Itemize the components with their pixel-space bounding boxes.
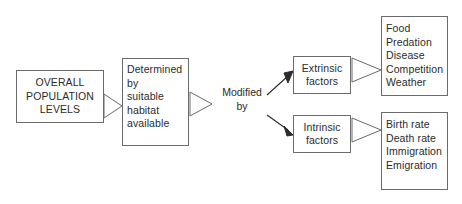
connector-population-to-determined-icon (104, 94, 122, 118)
node-line: by (127, 77, 188, 91)
node-line: Competition (386, 63, 447, 77)
node-line: Weather (386, 76, 447, 90)
node-extrinsic-factor-list: Food Predation Disease Competition Weath… (381, 16, 448, 96)
node-line: Food (386, 22, 447, 36)
edge-label-modified-by: Modified by (216, 86, 268, 113)
node-extrinsic-factors: Extrinsic factors (293, 56, 351, 94)
node-intrinsic-factor-list: Birth rate Death rate Immigration Emigra… (381, 112, 448, 190)
node-line: available (127, 117, 188, 131)
connector-determined-to-modified-icon (190, 92, 212, 116)
node-line: Extrinsic (302, 62, 343, 76)
node-line: habitat (127, 104, 188, 118)
node-line: suitable (127, 90, 188, 104)
flowchart-diagram: OVERALL POPULATION LEVELS Determined by … (0, 0, 462, 204)
node-line: LEVELS (26, 103, 94, 117)
node-line: factors (303, 134, 340, 148)
node-line: POPULATION (26, 90, 94, 104)
node-line: Emigration (386, 159, 447, 173)
connector-extrinsic-to-list-icon (352, 58, 381, 82)
connector-modified-to-intrinsic-icon (284, 126, 293, 136)
node-line: Immigration (386, 145, 447, 159)
node-line: OVERALL (26, 76, 94, 90)
edge-label-line: by (216, 100, 268, 114)
node-overall-population-levels: OVERALL POPULATION LEVELS (16, 70, 104, 123)
node-determined-by-suitable-habitat: Determined by suitable habitat available (122, 58, 189, 146)
node-intrinsic-factors: Intrinsic factors (293, 115, 351, 153)
connector-intrinsic-to-list-icon (352, 118, 381, 142)
node-line: Predation (386, 36, 447, 50)
edge-label-line: Modified (216, 86, 268, 100)
connector-modified-to-extrinsic-line (267, 76, 288, 95)
node-line: Birth rate (386, 118, 447, 132)
node-line: Intrinsic (303, 121, 340, 135)
node-line: Determined (127, 63, 188, 77)
connector-modified-to-extrinsic-icon (284, 71, 293, 83)
node-line: Disease (386, 49, 447, 63)
node-line: factors (302, 75, 343, 89)
node-line: Death rate (386, 132, 447, 146)
